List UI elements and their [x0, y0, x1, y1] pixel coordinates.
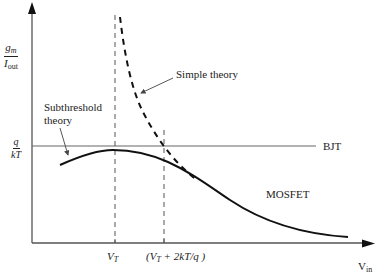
q-over-kt-label: q kT — [11, 137, 21, 160]
subthreshold-pointer — [60, 128, 68, 155]
x-tick-label-vt-plus-2kt: (VT + 2kT/q ) — [146, 251, 205, 264]
simple-theory-curve — [120, 17, 198, 181]
y-axis-label: gm Iout — [4, 42, 18, 71]
simple-theory-pointer — [141, 78, 173, 93]
bjt-label: BJT — [323, 141, 341, 152]
diagram-canvas — [0, 0, 380, 277]
subthreshold-label-line1: Subthreshold — [44, 102, 102, 113]
x-axis — [32, 240, 375, 248]
simple-theory-label: Simple theory — [176, 69, 238, 80]
x-axis-arrow-icon — [362, 240, 375, 248]
x-axis-label: Vin — [358, 261, 372, 274]
subthreshold-label-line2: theory — [44, 115, 72, 126]
y-axis — [28, 2, 36, 243]
x-tick-label-vt: VT — [107, 251, 118, 264]
mosfet-label: MOSFET — [266, 189, 309, 200]
gm-over-iout-diagram: gm Iout q kT BJT MOSFET Simple theory Su… — [0, 0, 380, 277]
y-axis-arrow-icon — [28, 2, 36, 14]
